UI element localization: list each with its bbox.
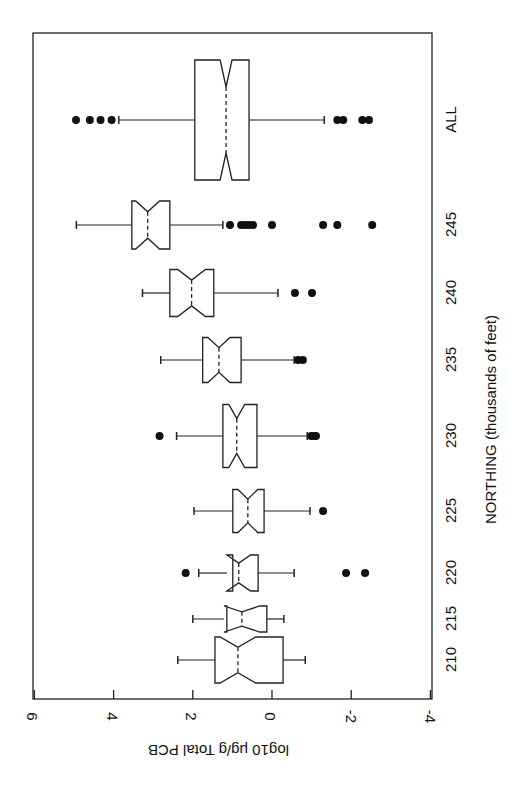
notched-box — [227, 555, 258, 591]
tick-label: -4 — [423, 710, 440, 723]
outlier-point — [72, 116, 80, 124]
category-label: 220 — [442, 559, 459, 587]
outlier-point — [182, 569, 190, 577]
box-group-235 — [161, 338, 307, 383]
outlier-point — [268, 221, 276, 229]
outlier-point — [319, 507, 327, 515]
category-label: 215 — [442, 605, 459, 633]
outlier-point — [226, 221, 234, 229]
box-group-210 — [178, 637, 306, 683]
outlier-point — [361, 569, 369, 577]
value-axis-ticks — [34, 690, 430, 699]
boxplot-chart — [0, 0, 509, 797]
notched-box — [132, 201, 170, 249]
tick-label: 2 — [182, 712, 199, 720]
category-label: 235 — [442, 346, 459, 374]
outlier-point — [368, 221, 376, 229]
box-group-230 — [156, 405, 320, 468]
outlier-point — [299, 356, 307, 364]
category-label: 210 — [442, 646, 459, 674]
category-label: 245 — [442, 211, 459, 239]
outlier-point — [333, 221, 341, 229]
outlier-point — [108, 116, 116, 124]
tick-label: 4 — [103, 712, 120, 720]
box-group-240 — [143, 270, 316, 317]
outlier-point — [156, 432, 164, 440]
tick-label: 6 — [24, 712, 41, 720]
category-axis-title: NORTHING (thousands of feet) — [482, 310, 499, 530]
outlier-point — [365, 116, 373, 124]
outlier-point — [339, 116, 347, 124]
outlier-point — [249, 221, 257, 229]
box-group-215 — [193, 606, 284, 632]
outlier-point — [97, 116, 105, 124]
box-groups — [72, 60, 376, 683]
box-group-all — [72, 60, 373, 180]
box-group-220 — [182, 555, 369, 591]
box-group-245 — [76, 201, 376, 249]
value-axis-title: log10 μg/g Total PCB — [148, 742, 289, 759]
notched-box — [223, 405, 257, 468]
outlier-point — [342, 569, 350, 577]
notched-box — [170, 270, 214, 317]
outlier-point — [312, 432, 320, 440]
box-group-225 — [194, 490, 327, 533]
outlier-point — [291, 289, 299, 297]
outlier-point — [86, 116, 94, 124]
category-label: 240 — [442, 279, 459, 307]
notched-box — [224, 606, 267, 632]
notched-box — [215, 637, 283, 683]
tick-label: 0 — [262, 712, 279, 720]
tick-label: -2 — [343, 710, 360, 723]
notched-box — [203, 338, 241, 383]
category-label: 230 — [442, 422, 459, 450]
outlier-point — [308, 289, 316, 297]
outlier-point — [319, 221, 327, 229]
notched-box — [195, 60, 249, 180]
notched-box — [233, 490, 264, 533]
category-label: 225 — [442, 497, 459, 525]
category-label: ALL — [442, 106, 459, 134]
